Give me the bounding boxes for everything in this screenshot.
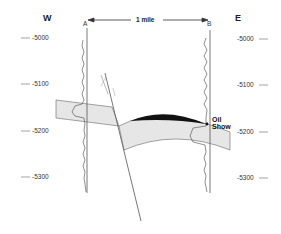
fault-line: [105, 73, 141, 221]
depth-label-left-5100: -5100: [32, 81, 49, 88]
well-b-log-trace: [190, 38, 207, 192]
well-a-label: A: [83, 21, 87, 28]
depth-label-right-5100: -5100: [237, 82, 254, 89]
depth-label-right-5000: -5000: [237, 36, 254, 43]
oil-show-marker: [206, 123, 209, 126]
direction-east-label: E: [235, 14, 241, 23]
reservoir-bed-west: [56, 100, 119, 126]
depth-label-right-5300: -5300: [237, 175, 254, 182]
well-b-label: B: [207, 21, 211, 28]
depth-label-right-5200: -5200: [237, 129, 254, 136]
oil-show-line2: Show: [212, 124, 231, 131]
depth-label-left-5000: -5000: [32, 35, 49, 42]
oil-show-annotation: Oil Show: [212, 117, 231, 130]
fault-arrow-up-icon: [101, 77, 106, 86]
depth-label-left-5200: -5200: [32, 128, 49, 135]
depth-ticks-left: [21, 38, 30, 177]
depth-label-left-5300: -5300: [32, 174, 49, 181]
scale-label: 1 mile: [136, 17, 154, 24]
depth-ticks-right: [259, 39, 268, 178]
direction-west-label: W: [43, 14, 52, 23]
fault-arrow-down-icon: [113, 88, 115, 96]
